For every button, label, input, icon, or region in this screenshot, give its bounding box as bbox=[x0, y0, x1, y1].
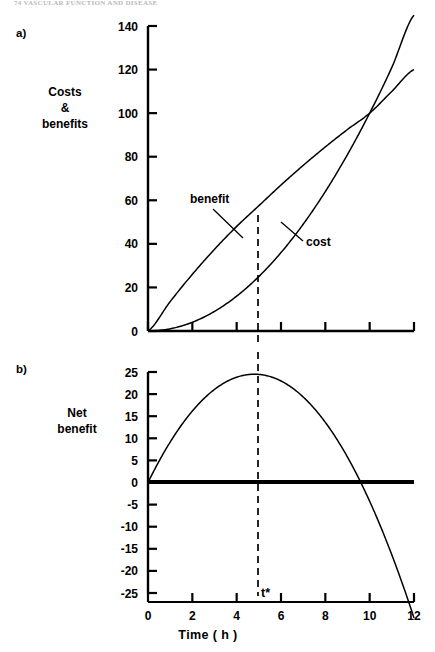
panel-a-y-tick-label: 140 bbox=[118, 20, 138, 34]
panel-a-y-tick-label: 40 bbox=[125, 237, 139, 251]
panel-b-y-tick-label: -5 bbox=[127, 498, 138, 512]
panel-a-y-tick-label: 100 bbox=[118, 107, 138, 121]
panel-a-y-tick-label: 60 bbox=[125, 194, 139, 208]
panel-a-y-tick-label: 0 bbox=[131, 325, 138, 339]
panel-b-y-tick-label: 0 bbox=[131, 476, 138, 490]
t-star-label: t* bbox=[261, 586, 270, 600]
benefit-curve bbox=[148, 70, 414, 331]
panel-a-y-tick-labels: 020406080100120140 bbox=[118, 20, 138, 339]
panel-a-y-tick-label: 80 bbox=[125, 150, 139, 164]
plot-area: 020406080100120140 benefit cost 25201510… bbox=[0, 0, 435, 652]
panel-b-x-tick-labels: 024681012 bbox=[145, 609, 421, 623]
panel-b-x-tick-label: 10 bbox=[363, 609, 377, 623]
panel-a-y-tick-label: 20 bbox=[125, 281, 139, 295]
panel-b-y-tick-labels: 2520151050-5-10-15-20-25 bbox=[121, 366, 139, 601]
panel-b-x-tick-label: 2 bbox=[189, 609, 196, 623]
cost-label: cost bbox=[306, 235, 331, 249]
benefit-leader-line bbox=[213, 209, 243, 238]
panel-b-y-tick-label: 25 bbox=[125, 366, 139, 380]
benefit-label: benefit bbox=[190, 192, 229, 206]
panel-b-y-tick-label: 15 bbox=[125, 410, 139, 424]
panel-b-x-tick-label: 6 bbox=[278, 609, 285, 623]
panel-b-x-tick-label: 8 bbox=[322, 609, 329, 623]
cost-curve bbox=[148, 15, 414, 331]
net-benefit-curve bbox=[148, 374, 414, 618]
panel-a-y-ticks bbox=[148, 26, 157, 331]
panel-b-y-tick-label: -25 bbox=[121, 587, 139, 601]
panel-b-y-tick-label: 10 bbox=[125, 432, 139, 446]
panel-a-group: 020406080100120140 benefit cost bbox=[118, 15, 414, 345]
panel-b-y-tick-label: -20 bbox=[121, 564, 139, 578]
panel-b-y-tick-label: 5 bbox=[131, 454, 138, 468]
panel-b-y-tick-label: -15 bbox=[121, 542, 139, 556]
panel-b-x-tick-label: 0 bbox=[145, 609, 152, 623]
panel-b-x-ticks bbox=[148, 593, 414, 602]
panel-a-y-tick-label: 120 bbox=[118, 63, 138, 77]
panel-b-y-tick-label: 20 bbox=[125, 388, 139, 402]
panel-b-group: 2520151050-5-10-15-20-25 024681012 t* bbox=[121, 352, 421, 623]
panel-b-y-tick-label: -10 bbox=[121, 520, 139, 534]
panel-b-x-tick-label: 4 bbox=[233, 609, 240, 623]
figure-container: 74 VASCULAR FUNCTION AND DISEASE a) Cost… bbox=[0, 0, 435, 652]
